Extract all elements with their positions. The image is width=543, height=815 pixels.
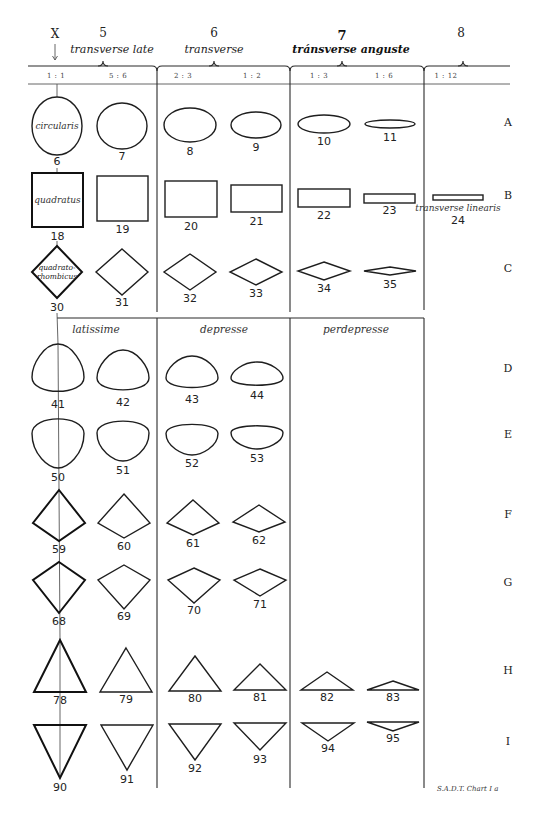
row-label-c: C <box>504 262 512 275</box>
column-group-7: 7tránsverse anguste <box>292 28 410 66</box>
ratio-label: 2 : 3 <box>174 72 192 80</box>
shape-number: 91 <box>120 773 134 786</box>
row-label-a: A <box>503 116 513 129</box>
shape-11: 11 <box>365 120 415 144</box>
shape-number: 94 <box>321 742 335 755</box>
x-marker-label: X <box>51 27 60 41</box>
group-number: 6 <box>210 26 218 40</box>
shape-92: 92 <box>169 724 221 775</box>
shape-19: 19 <box>97 176 148 236</box>
shape-82: 82 <box>301 672 353 704</box>
brace-peak <box>458 61 468 66</box>
shape-number: 70 <box>187 604 201 617</box>
shape-93: 93 <box>234 723 286 766</box>
shape-number: 79 <box>119 693 133 706</box>
shape-number: 35 <box>383 278 397 291</box>
shape-24: transverse linearis24 <box>415 195 501 227</box>
shape-number: 61 <box>186 537 200 550</box>
shape-number: 90 <box>53 781 67 794</box>
brace-peak <box>337 61 347 66</box>
sub-group-label: latissime <box>72 323 120 335</box>
row-label-h: H <box>503 664 513 677</box>
shape-number: 59 <box>52 543 66 556</box>
ratio-label: 1 : 12 <box>434 72 457 80</box>
shape-6: circularis6 <box>32 97 82 168</box>
shape-20: 20 <box>165 181 217 233</box>
shape-7: 7 <box>97 103 147 163</box>
ratio-label: 1 : 2 <box>243 72 261 80</box>
shape-number: 44 <box>250 389 264 402</box>
shape-number: 42 <box>116 396 130 409</box>
shape-51: 51 <box>97 421 149 477</box>
shape-number: 31 <box>115 296 129 309</box>
shape-number: 78 <box>53 694 67 707</box>
shape-number: 50 <box>51 471 65 484</box>
brace-peak <box>98 61 108 66</box>
shape-number: 24 <box>451 214 465 227</box>
shape-number: 69 <box>117 610 131 623</box>
shape-81: 81 <box>234 664 286 704</box>
shape-68: 68 <box>33 562 85 628</box>
shape-42: 42 <box>97 350 149 409</box>
shape-number: 93 <box>253 753 267 766</box>
group-number: 7 <box>337 28 346 43</box>
row-labels: ABCDEFGHI <box>503 116 513 748</box>
column-group-5: 5transverse late <box>70 26 154 66</box>
shape-52: 52 <box>166 424 218 470</box>
shape-number: 80 <box>188 692 202 705</box>
shape-number: 9 <box>253 141 260 154</box>
row-label-g: G <box>504 576 513 589</box>
shape-number: 10 <box>317 135 331 148</box>
ratio-label: 1 : 6 <box>375 72 393 80</box>
group-number: 8 <box>457 26 465 40</box>
shape-inner-label: circularis <box>35 121 78 131</box>
shape-number: 52 <box>185 457 199 470</box>
shape-inner-label: quadratus <box>34 195 81 205</box>
ratio-label: 5 : 6 <box>109 72 127 80</box>
down-arrow-icon <box>53 44 58 60</box>
shape-number: 51 <box>116 464 130 477</box>
shape-number: 43 <box>185 393 199 406</box>
shape-number: 6 <box>54 155 61 168</box>
shape-70: 70 <box>168 568 220 617</box>
row-label-d: D <box>504 362 513 375</box>
sub-group-label: depresse <box>200 323 248 335</box>
shape-62: 62 <box>233 505 285 547</box>
row-label-b: B <box>504 189 512 202</box>
shape-inner-label: rhombicus <box>37 272 77 281</box>
shape-number: 34 <box>317 282 331 295</box>
ratio-row: 1 : 15 : 62 : 31 : 21 : 31 : 61 : 12 <box>47 72 458 80</box>
shape-8: 8 <box>164 108 216 158</box>
shape-10: 10 <box>298 115 350 148</box>
shape-35: 35 <box>364 267 416 291</box>
shape-18: quadratus18 <box>32 173 83 243</box>
shape-79: 79 <box>100 648 152 706</box>
shape-number: 20 <box>184 220 198 233</box>
shape-number: 82 <box>320 691 334 704</box>
shape-91: 91 <box>101 725 153 786</box>
shape-number: 33 <box>249 287 263 300</box>
shape-34: 34 <box>298 262 350 295</box>
shape-80: 80 <box>169 656 221 705</box>
group-label: transverse late <box>70 43 154 56</box>
row-label-i: I <box>506 735 510 748</box>
shape-number: 68 <box>52 615 66 628</box>
ratio-label: 1 : 1 <box>47 72 65 80</box>
group-label: tránsverse anguste <box>292 43 410 56</box>
shape-number: 23 <box>383 204 397 217</box>
shape-grid: circularis67891011quadratus181920212223t… <box>32 97 501 794</box>
shape-number: 60 <box>117 540 131 553</box>
row-label-f: F <box>504 508 512 521</box>
shape-71: 71 <box>234 569 286 611</box>
shape-number: 19 <box>116 223 130 236</box>
shape-number: 83 <box>386 691 400 704</box>
x-marker: X <box>51 27 60 60</box>
shape-95: 95 <box>367 722 419 745</box>
shape-50: 50 <box>32 419 84 484</box>
shape-21: 21 <box>231 185 282 228</box>
shape-number: 62 <box>252 534 266 547</box>
shape-69: 69 <box>98 565 150 623</box>
shape-number: 95 <box>386 732 400 745</box>
brace-peak <box>209 61 219 66</box>
shape-caption: transverse linearis <box>415 203 501 213</box>
